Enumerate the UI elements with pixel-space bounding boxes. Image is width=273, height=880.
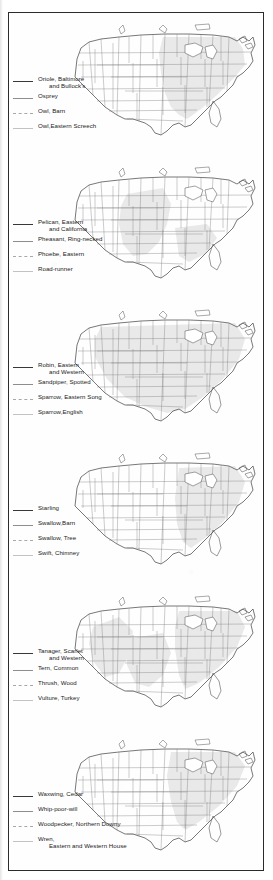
legend-label: Swallow,Barn [38, 519, 171, 526]
legend-line-swatch-dashed [13, 826, 33, 827]
legend-label: Sparrow,English [38, 408, 171, 415]
scanned-page: Oriole, Baltimoreand Bullock'sOspreyOwl,… [0, 0, 273, 880]
legend-line-swatch-solid-mid [13, 811, 33, 812]
legend-item: Osprey [11, 92, 171, 105]
legend-label: Owl, Barn [38, 107, 171, 114]
legend-item: Wren,Eastern and Western House [11, 835, 171, 850]
page-frame-border: Oriole, Baltimoreand Bullock'sOspreyOwl,… [8, 12, 264, 871]
legend-line-swatch-solid-dark [13, 224, 33, 225]
legend-item: Pheasant, Ring-necked [11, 235, 171, 248]
legend-1: Oriole, Baltimoreand Bullock'sOspreyOwl,… [11, 75, 171, 137]
legend-line-swatch-dashed [13, 113, 33, 114]
legend-item: Sandpiper, Spotted [11, 378, 171, 391]
legend-line-swatch-solid-dark [13, 81, 33, 82]
legend-label: Thrush, Wood [38, 679, 171, 686]
legend-item: Swallow, Tree [11, 534, 171, 547]
legend-label: Swallow, Tree [38, 534, 171, 541]
map-panel-3: Robin, Easternand WesternSandpiper, Spot… [9, 299, 265, 444]
legend-line-swatch-solid-light [13, 841, 33, 842]
legend-label: Sandpiper, Spotted [38, 378, 171, 385]
legend-line-swatch-solid-mid [13, 670, 33, 671]
legend-label: Pelican, Easternand California [38, 218, 171, 233]
legend-line-swatch-dashed [13, 256, 33, 257]
legend-item: Pelican, Easternand California [11, 218, 171, 233]
legend-line-swatch-dashed [13, 685, 33, 686]
legend-line-swatch-solid-mid [13, 241, 33, 242]
legend-item: Thrush, Wood [11, 679, 171, 692]
legend-item: Swallow,Barn [11, 519, 171, 532]
legend-label: Sparrow, Eastern Song [38, 393, 171, 400]
legend-item: Phoebe, Eastern [11, 250, 171, 263]
legend-5: Tanager, Scarletand WesternTern, CommonT… [11, 647, 171, 709]
legend-line-swatch-solid-dark [13, 796, 33, 797]
map-panel-2: Pelican, Easternand CaliforniaPheasant, … [9, 156, 265, 301]
legend-line-swatch-solid-mid [13, 384, 33, 385]
legend-item: Vulture, Turkey [11, 694, 171, 707]
legend-label: Pheasant, Ring-necked [38, 235, 171, 242]
legend-item: Whip-poor-will [11, 805, 171, 818]
legend-label: Oriole, Baltimoreand Bullock's [38, 75, 171, 90]
legend-item: Waxwing, Cedar [11, 790, 171, 803]
legend-item: Woodpecker, Northern Downy [11, 820, 171, 833]
page-edge-shadow [0, 0, 3, 880]
legend-line-swatch-solid-light [13, 128, 33, 129]
legend-line-swatch-dashed [13, 399, 33, 400]
legend-line-swatch-solid-mid [13, 525, 33, 526]
legend-label: Robin, Easternand Western [38, 361, 171, 376]
legend-label: Whip-poor-will [38, 805, 171, 812]
legend-3: Robin, Easternand WesternSandpiper, Spot… [11, 361, 171, 423]
legend-line-swatch-solid-dark [13, 510, 33, 511]
legend-line-swatch-solid-mid [13, 98, 33, 99]
legend-label: Osprey [38, 92, 171, 99]
legend-label: Swift, Chimney [38, 549, 171, 556]
legend-label: Woodpecker, Northern Downy [38, 820, 171, 827]
legend-line-swatch-solid-light [13, 700, 33, 701]
legend-item: Owl,Eastern Screech [11, 122, 171, 135]
legend-item: Swift, Chimney [11, 549, 171, 562]
legend-item: Tern, Common [11, 664, 171, 677]
map-panel-1: Oriole, Baltimoreand Bullock'sOspreyOwl,… [9, 13, 265, 158]
legend-item: Robin, Easternand Western [11, 361, 171, 376]
legend-line-swatch-dashed [13, 540, 33, 541]
legend-label: Road-runner [38, 265, 171, 272]
legend-label: Wren,Eastern and Western House [38, 835, 171, 850]
legend-item: Owl, Barn [11, 107, 171, 120]
legend-item: Sparrow, Eastern Song [11, 393, 171, 406]
legend-4: StarlingSwallow,BarnSwallow, TreeSwift, … [11, 504, 171, 564]
legend-label: Tern, Common [38, 664, 171, 671]
legend-label: Vulture, Turkey [38, 694, 171, 701]
legend-line-swatch-solid-light [13, 555, 33, 556]
legend-line-swatch-solid-dark [13, 367, 33, 368]
legend-label: Phoebe, Eastern [38, 250, 171, 257]
legend-item: Starling [11, 504, 171, 517]
legend-label: Waxwing, Cedar [38, 790, 171, 797]
legend-item: Sparrow,English [11, 408, 171, 421]
legend-line-swatch-solid-light [13, 271, 33, 272]
legend-item: Road-runner [11, 265, 171, 278]
legend-6: Waxwing, CedarWhip-poor-willWoodpecker, … [11, 790, 171, 852]
legend-label: Starling [38, 504, 171, 511]
legend-label: Owl,Eastern Screech [38, 122, 171, 129]
legend-line-swatch-solid-light [13, 414, 33, 415]
legend-label: Tanager, Scarletand Western [38, 647, 171, 662]
map-panel-4: StarlingSwallow,BarnSwallow, TreeSwift, … [9, 442, 265, 587]
legend-item: Oriole, Baltimoreand Bullock's [11, 75, 171, 90]
legend-item: Tanager, Scarletand Western [11, 647, 171, 662]
map-panel-5: Tanager, Scarletand WesternTern, CommonT… [9, 585, 265, 730]
map-panel-6: Waxwing, CedarWhip-poor-willWoodpecker, … [9, 728, 265, 873]
legend-2: Pelican, Easternand CaliforniaPheasant, … [11, 218, 171, 280]
legend-line-swatch-solid-dark [13, 653, 33, 654]
